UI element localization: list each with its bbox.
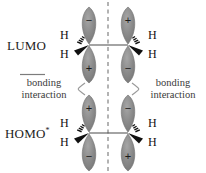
diagram-canvas: LUMO HOMO* bonding interaction bonding i… [0,0,206,173]
homo-star-superscript: * [46,126,50,135]
right-bonding-interaction-line2: interaction [140,89,206,101]
homo-right-hashed-bond [132,125,139,132]
left-bonding-interaction-line1: bonding [8,77,80,89]
lumo-right-bottom-lobe-sign: − [121,63,135,74]
homo-left-bottom-lobe-sign: − [82,151,96,162]
homo-left-hashed-hydrogen-label: H [60,117,69,129]
lumo-left-hashed-hydrogen-label: H [60,29,69,41]
lumo-left-hashed-bond [77,37,84,44]
lumo-left-bottom-lobe-sign: + [82,63,96,74]
right-bonding-interaction-line1: bonding [140,77,206,89]
left-bonding-interaction-label: bonding interaction [8,77,80,102]
left-bonding-interaction-line2: interaction [8,89,80,101]
right-bonding-interaction-label: bonding interaction [140,77,206,102]
lumo-left-top-lobe-sign: − [82,15,96,26]
homo-right-hashed-hydrogen-label: H [148,117,157,129]
homo-row-label-text: HOMO [5,126,46,141]
homo-row-label: HOMO* [5,127,50,140]
lumo-right-wedge-hydrogen-label: H [148,48,157,60]
lumo-right-hashed-bond [132,37,139,44]
homo-right-top-lobe-sign: − [121,103,135,114]
right-bonding-interaction-arc [132,83,139,95]
lumo-right-hashed-hydrogen-label: H [148,29,157,41]
lumo-left-wedge-hydrogen-label: H [60,48,69,60]
homo-left-hashed-bond [77,125,84,132]
homo-left-top-lobe-sign: + [82,103,96,114]
homo-left-wedge-hydrogen-label: H [60,136,69,148]
lumo-right-top-lobe-sign: + [121,15,135,26]
lumo-row-label: LUMO [7,39,46,52]
homo-right-wedge-hydrogen-label: H [148,136,157,148]
homo-right-bottom-lobe-sign: + [121,151,135,162]
